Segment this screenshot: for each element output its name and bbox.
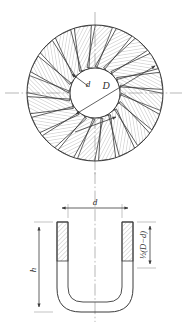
engineering-drawing: d D d h ½(D−d) — [0, 0, 185, 329]
height-dimension-label: h — [28, 267, 38, 272]
wall-section-left — [57, 222, 68, 261]
inner-diameter-label: d — [86, 79, 91, 89]
plan-view: d D — [5, 12, 182, 176]
inner-diameter-circle — [70, 68, 120, 118]
width-dimension-label: d — [93, 197, 98, 207]
section-view: d h ½(D−d) — [28, 172, 156, 322]
figure-caption — [0, 322, 185, 329]
wall-section-right — [122, 222, 133, 261]
wall-thickness-label: ½(D−d) — [138, 231, 148, 259]
outer-diameter-label: D — [101, 80, 110, 91]
